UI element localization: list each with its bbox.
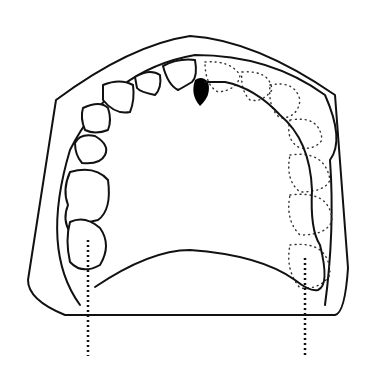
tooth [75,135,106,163]
tooth [135,72,160,95]
dental-cast-diagram [0,0,384,382]
tooth [163,60,196,90]
remaining-teeth-right [65,60,196,270]
palate-outline [95,82,325,290]
tooth [82,104,110,133]
